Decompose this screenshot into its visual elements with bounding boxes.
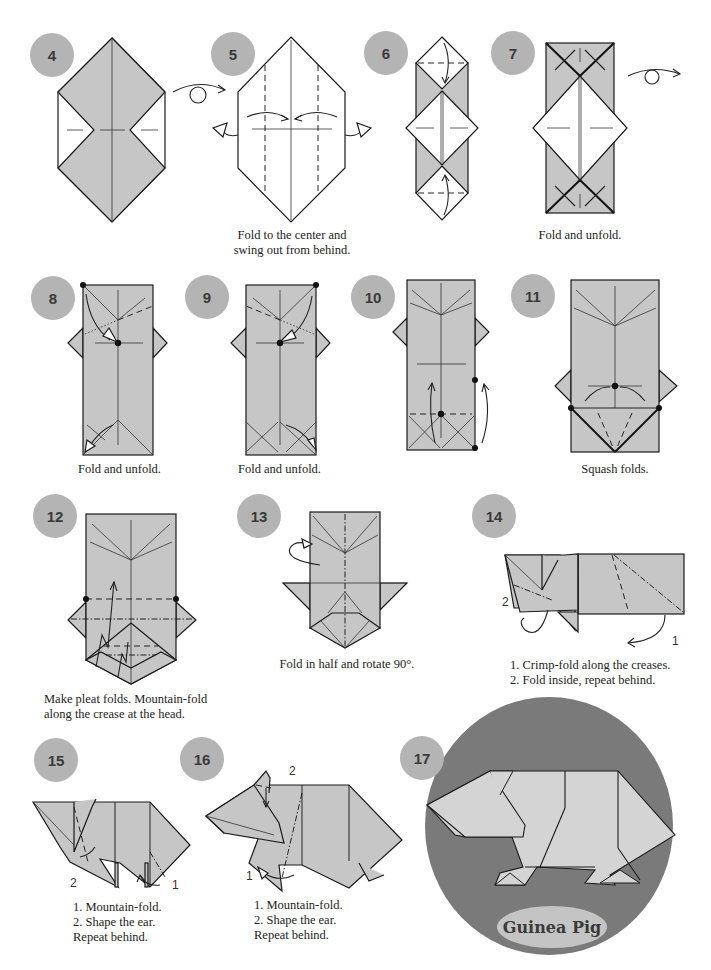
step-14-label-2: 2	[502, 595, 509, 609]
step-8-diagram	[65, 280, 170, 460]
step-13-badge: 13	[237, 494, 281, 538]
step-9-badge: 9	[185, 275, 229, 319]
step-14-caption: 1. Crimp-fold along the creases. 2. Fold…	[510, 658, 670, 688]
step-15-label-2: 2	[70, 876, 77, 890]
step-16-label-2: 2	[289, 764, 296, 778]
step-14-badge: 14	[472, 494, 516, 538]
step-15-label-1: 1	[172, 878, 179, 892]
step-11-badge: 11	[511, 274, 555, 318]
step-14-diagram: 2 1	[500, 550, 700, 660]
step-16-diagram: 2 1	[204, 763, 409, 898]
step-9-caption: Fold and unfold.	[222, 462, 337, 477]
model-title-label: Guinea Pig	[497, 906, 607, 948]
step-6-diagram	[404, 35, 479, 225]
step-11-diagram	[552, 278, 682, 458]
turn-over-arrow-icon	[625, 62, 685, 92]
step-12-caption: Make pleat folds. Mountain-fold along th…	[44, 692, 207, 722]
step-4-diagram	[55, 35, 170, 230]
step-16-label-1: 1	[246, 869, 253, 883]
step-11-caption: Squash folds.	[560, 462, 670, 477]
model-title-text: Guinea Pig	[503, 918, 601, 937]
step-13-diagram	[280, 510, 415, 670]
step-13-caption: Fold in half and rotate 90°.	[272, 657, 422, 672]
step-15-badge: 15	[34, 738, 78, 782]
step-10-diagram	[390, 278, 500, 453]
step-5-caption: Fold to the center and swing out from be…	[222, 228, 362, 258]
step-8-caption: Fold and unfold.	[62, 462, 177, 477]
step-6-badge: 6	[364, 31, 408, 75]
step-12-diagram	[66, 512, 201, 687]
step-15-diagram: 2 1	[30, 797, 200, 892]
step-7-badge: 7	[491, 31, 535, 75]
guinea-pig-final-model	[425, 765, 695, 905]
step-7-diagram	[530, 42, 630, 214]
step-7-caption: Fold and unfold.	[520, 228, 640, 243]
step-9-diagram	[228, 280, 333, 460]
step-15-caption: 1. Mountain-fold. 2. Shape the ear. Repe…	[73, 900, 162, 945]
step-16-caption: 1. Mountain-fold. 2. Shape the ear. Repe…	[254, 898, 343, 943]
step-5-diagram	[205, 35, 375, 230]
step-14-label-1: 1	[672, 634, 679, 648]
step-10-badge: 10	[351, 275, 395, 319]
